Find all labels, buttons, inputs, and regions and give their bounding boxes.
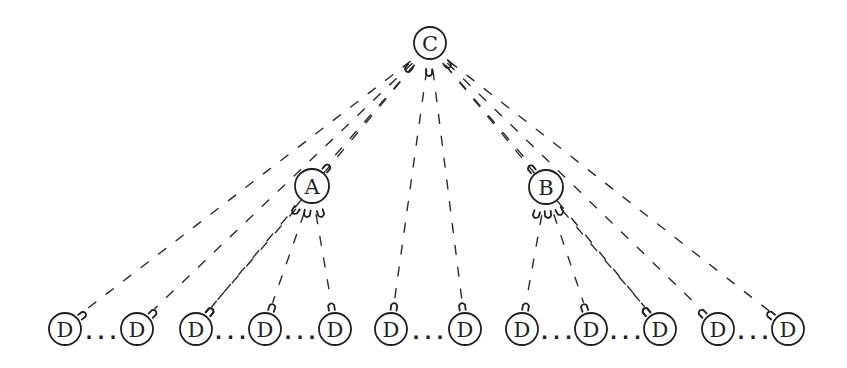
edge-B-D9 — [554, 215, 584, 302]
port-cup-icon — [545, 211, 551, 218]
ellipsis-text: ... — [83, 320, 119, 344]
edge-C-D6 — [394, 71, 426, 301]
tree-diagram: CABDDDDDDDDDDDD ..................... — [0, 0, 847, 368]
port-cup-icon — [391, 303, 398, 311]
node-label: D — [710, 318, 727, 342]
node-d-2: D — [121, 313, 153, 345]
edge-C-B — [446, 66, 530, 164]
ports-layer — [78, 60, 775, 320]
node-d-5: D — [319, 313, 351, 345]
edge-C-D12 — [450, 62, 769, 311]
node-label: D — [383, 318, 400, 342]
port-cup-icon — [766, 310, 775, 319]
port-cup-icon — [532, 210, 540, 219]
ellipsis-text: ... — [735, 320, 771, 344]
ellipsis-text: ... — [607, 320, 643, 344]
port-cup-icon — [322, 163, 331, 172]
port-cup-icon — [206, 307, 215, 316]
port-cup-icon — [641, 307, 650, 316]
ellipsis-text: ... — [212, 320, 248, 344]
node-label: C — [422, 32, 438, 56]
edge-A-D4 — [273, 214, 304, 303]
port-cup-icon — [304, 210, 311, 218]
ellipsis-text: ... — [282, 320, 318, 344]
port-cup-icon — [149, 309, 158, 318]
edge-A-D5 — [316, 215, 331, 302]
edge-B-D8 — [526, 216, 542, 302]
port-cup-icon — [522, 303, 529, 311]
node-d-11: D — [702, 313, 734, 345]
node-a: A — [295, 169, 329, 203]
port-cup-icon — [426, 69, 432, 76]
port-cup-icon — [697, 309, 706, 318]
node-label: D — [457, 318, 474, 342]
port-cup-icon — [443, 60, 452, 69]
edges-layer — [85, 61, 769, 310]
node-label: D — [327, 318, 344, 342]
ellipsis-text: ... — [410, 320, 446, 344]
node-label: A — [303, 175, 320, 199]
edge-C-D11 — [448, 64, 701, 309]
node-label: D — [652, 318, 669, 342]
node-label: D — [257, 318, 274, 342]
node-label: D — [583, 318, 600, 342]
node-label: D — [188, 318, 205, 342]
port-cup-icon — [268, 303, 276, 312]
node-d-12: D — [772, 313, 804, 345]
node-d-1: D — [49, 313, 81, 345]
edge-A-D3 — [212, 209, 296, 306]
node-label: D — [57, 318, 74, 342]
node-b: B — [529, 170, 563, 204]
edge-C-D2 — [155, 64, 412, 309]
port-cup-icon — [328, 303, 335, 311]
node-label: D — [780, 318, 797, 342]
node-label: B — [538, 176, 553, 200]
node-label: D — [129, 318, 146, 342]
node-d-3: D — [180, 313, 212, 345]
node-d-8: D — [506, 313, 538, 345]
port-cup-icon — [580, 303, 588, 311]
node-d-9: D — [575, 313, 607, 345]
node-label: D — [514, 318, 531, 342]
port-cup-icon — [78, 311, 87, 320]
edge-C-D1 — [85, 61, 411, 310]
node-d-7: D — [449, 313, 481, 345]
node-d-6: D — [375, 313, 407, 345]
port-cup-icon — [317, 209, 325, 217]
node-c: C — [414, 27, 446, 59]
edge-C-A — [329, 65, 415, 163]
edge-C-D7 — [433, 71, 462, 301]
node-d-10: D — [644, 313, 676, 345]
port-cup-icon — [459, 303, 466, 311]
node-d-4: D — [249, 313, 281, 345]
ellipsis-text: ... — [538, 320, 574, 344]
